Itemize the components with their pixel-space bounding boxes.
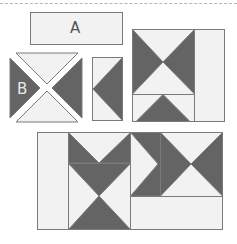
block-bottom <box>38 133 223 230</box>
block-top-right <box>133 30 225 122</box>
piece-narrow <box>93 58 123 121</box>
label-a: A <box>70 19 80 37</box>
label-b: B <box>17 80 27 98</box>
quilt-diagram <box>0 0 237 244</box>
